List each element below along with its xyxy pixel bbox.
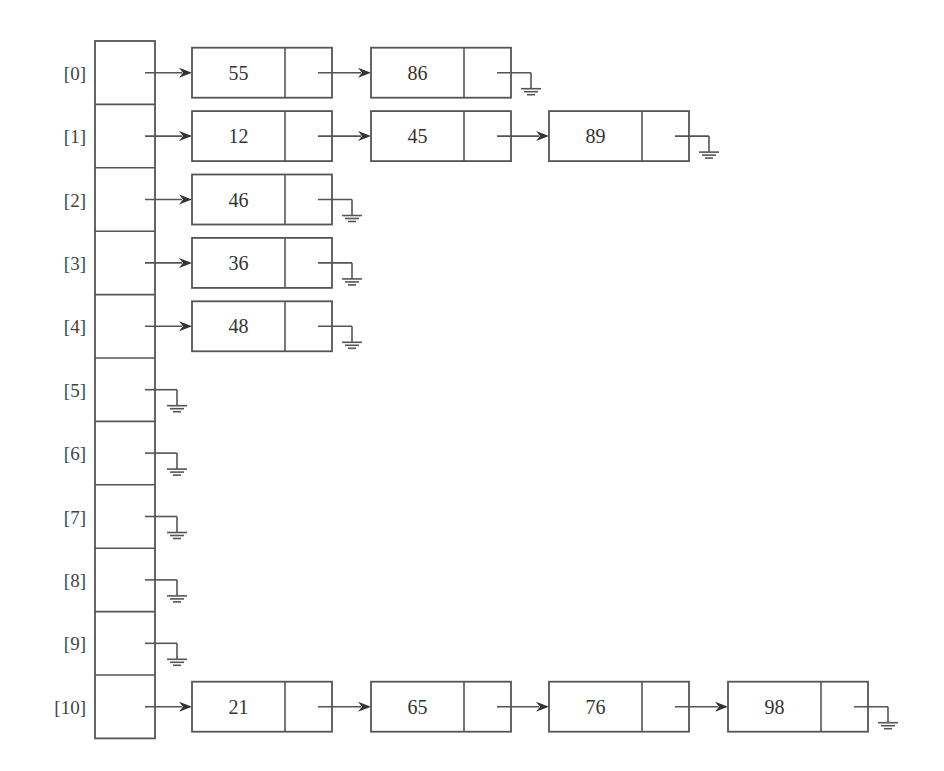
bucket-index-label: [5] <box>64 380 86 401</box>
node-box <box>728 682 868 732</box>
bucket-index-label: [2] <box>64 190 86 211</box>
chain-row-2: 46 <box>145 175 362 225</box>
node-value: 21 <box>229 696 249 718</box>
list-node: 65 <box>371 682 511 732</box>
null-ground-icon <box>167 517 187 539</box>
node-value: 12 <box>229 125 249 147</box>
node-value: 36 <box>229 252 249 274</box>
null-ground-icon <box>342 263 362 285</box>
bucket-index-label: [9] <box>64 633 86 654</box>
node-box <box>192 301 332 351</box>
list-node: 76 <box>549 682 689 732</box>
bucket-index-label: [10] <box>54 697 86 718</box>
list-node: 86 <box>371 48 511 98</box>
chain-row-4: 48 <box>145 301 362 351</box>
node-box <box>192 175 332 225</box>
node-box <box>192 111 332 161</box>
node-value: 76 <box>586 696 606 718</box>
chain-row-0: 5586 <box>145 48 541 98</box>
node-box <box>371 111 511 161</box>
node-value: 55 <box>229 62 249 84</box>
node-box <box>371 682 511 732</box>
node-value: 65 <box>408 696 428 718</box>
list-node: 48 <box>192 301 332 351</box>
null-ground-icon <box>167 580 187 602</box>
chain-row-10: 21657698 <box>145 682 898 732</box>
list-node: 98 <box>728 682 868 732</box>
null-ground-icon <box>521 73 541 95</box>
chain-row-1: 124589 <box>145 111 719 161</box>
null-ground-icon <box>878 707 898 729</box>
node-value: 86 <box>408 62 428 84</box>
list-node: 46 <box>192 175 332 225</box>
bucket-index-label: [6] <box>64 443 86 464</box>
node-value: 89 <box>586 125 606 147</box>
hash-table-diagram: [0][1][2][3][4][5][6][7][8][9][10] 55861… <box>0 0 944 771</box>
bucket-chains: 558612458946364821657698 <box>145 48 898 732</box>
null-ground-icon <box>342 326 362 348</box>
null-ground-icon <box>167 390 187 412</box>
list-node: 21 <box>192 682 332 732</box>
node-box <box>371 48 511 98</box>
node-box <box>192 682 332 732</box>
node-value: 98 <box>765 696 785 718</box>
node-box <box>192 48 332 98</box>
bucket-index-label: [0] <box>64 63 86 84</box>
node-value: 45 <box>408 125 428 147</box>
list-node: 55 <box>192 48 332 98</box>
null-ground-icon <box>167 453 187 475</box>
null-ground-icon <box>167 643 187 665</box>
list-node: 45 <box>371 111 511 161</box>
list-node: 12 <box>192 111 332 161</box>
list-node: 36 <box>192 238 332 288</box>
node-box <box>192 238 332 288</box>
bucket-index-label: [3] <box>64 253 86 274</box>
node-box <box>549 682 689 732</box>
node-box <box>549 111 689 161</box>
null-ground-icon <box>699 136 719 158</box>
list-node: 89 <box>549 111 689 161</box>
bucket-index-label: [1] <box>64 126 86 147</box>
bucket-index-label: [7] <box>64 507 86 528</box>
node-value: 46 <box>229 189 249 211</box>
chain-row-3: 36 <box>145 238 362 288</box>
bucket-index-label: [4] <box>64 316 86 337</box>
bucket-index-label: [8] <box>64 570 86 591</box>
node-value: 48 <box>229 315 249 337</box>
bucket-index-labels: [0][1][2][3][4][5][6][7][8][9][10] <box>54 63 86 718</box>
null-ground-icon <box>342 200 362 222</box>
